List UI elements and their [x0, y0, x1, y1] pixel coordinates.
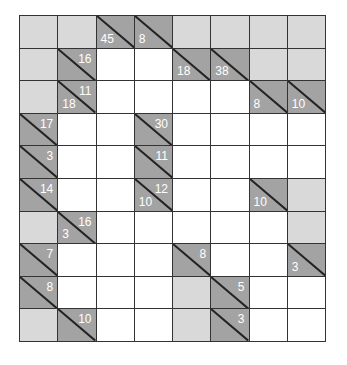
down-clue: 38 — [215, 65, 228, 77]
entry-cell[interactable] — [211, 114, 248, 146]
clue-cell: 11 — [135, 146, 172, 178]
entry-cell[interactable] — [135, 212, 172, 244]
entry-cell[interactable] — [97, 114, 134, 146]
across-clue: 3 — [238, 313, 245, 325]
blocked-cell — [288, 49, 325, 81]
entry-cell[interactable] — [211, 146, 248, 178]
clue-cell: 8 — [20, 277, 57, 309]
across-clue: 12 — [155, 183, 168, 195]
entry-cell[interactable] — [250, 212, 287, 244]
entry-cell[interactable] — [135, 244, 172, 276]
entry-cell[interactable] — [135, 49, 172, 81]
down-clue: 45 — [101, 33, 114, 45]
blocked-cell — [250, 49, 287, 81]
blocked-cell — [173, 16, 210, 48]
blocked-cell — [173, 277, 210, 309]
entry-cell[interactable] — [97, 146, 134, 178]
across-clue: 17 — [40, 118, 53, 130]
across-clue: 16 — [78, 216, 91, 228]
across-clue: 14 — [40, 183, 53, 195]
entry-cell[interactable] — [97, 179, 134, 211]
entry-cell[interactable] — [211, 179, 248, 211]
across-clue: 8 — [47, 281, 54, 293]
blocked-cell — [288, 179, 325, 211]
entry-cell[interactable] — [250, 277, 287, 309]
clue-cell: 3 — [211, 309, 248, 341]
entry-cell[interactable] — [58, 244, 95, 276]
entry-cell[interactable] — [97, 277, 134, 309]
entry-cell[interactable] — [173, 146, 210, 178]
entry-cell[interactable] — [97, 81, 134, 113]
clue-cell: 30 — [135, 114, 172, 146]
blocked-cell — [211, 16, 248, 48]
clue-cell: 17 — [20, 114, 57, 146]
across-clue: 16 — [78, 53, 91, 65]
across-clue: 5 — [238, 281, 245, 293]
entry-cell[interactable] — [250, 244, 287, 276]
blocked-cell — [20, 81, 57, 113]
clue-cell: 10 — [288, 81, 325, 113]
entry-cell[interactable] — [97, 49, 134, 81]
down-clue: 18 — [177, 65, 190, 77]
entry-cell[interactable] — [58, 277, 95, 309]
entry-cell[interactable] — [58, 146, 95, 178]
entry-cell[interactable] — [173, 212, 210, 244]
clue-cell: 8 — [135, 16, 172, 48]
blocked-cell — [250, 16, 287, 48]
entry-cell[interactable] — [173, 114, 210, 146]
entry-cell[interactable] — [97, 244, 134, 276]
blocked-cell — [20, 16, 57, 48]
clue-cell: 3 — [288, 244, 325, 276]
clue-cell: 10 — [58, 309, 95, 341]
across-clue: 10 — [78, 313, 91, 325]
clue-cell: 1118 — [58, 81, 95, 113]
entry-cell[interactable] — [135, 277, 172, 309]
down-clue: 3 — [292, 261, 299, 273]
blocked-cell — [20, 49, 57, 81]
clue-cell: 163 — [58, 212, 95, 244]
clue-cell: 8 — [173, 244, 210, 276]
entry-cell[interactable] — [173, 81, 210, 113]
entry-cell[interactable] — [97, 212, 134, 244]
across-clue: 7 — [47, 248, 54, 260]
entry-cell[interactable] — [58, 179, 95, 211]
kakuro-grid: 4581618381118810173031114121010163783851… — [19, 15, 326, 342]
blocked-cell — [20, 212, 57, 244]
entry-cell[interactable] — [211, 212, 248, 244]
across-clue: 30 — [155, 118, 168, 130]
entry-cell[interactable] — [97, 309, 134, 341]
clue-cell: 8 — [250, 81, 287, 113]
clue-cell: 16 — [58, 49, 95, 81]
entry-cell[interactable] — [288, 309, 325, 341]
down-clue: 18 — [62, 98, 75, 110]
blocked-cell — [173, 309, 210, 341]
entry-cell[interactable] — [288, 277, 325, 309]
entry-cell[interactable] — [288, 114, 325, 146]
clue-cell: 18 — [173, 49, 210, 81]
entry-cell[interactable] — [250, 114, 287, 146]
across-clue: 11 — [156, 150, 168, 162]
blocked-cell — [288, 212, 325, 244]
entry-cell[interactable] — [250, 146, 287, 178]
entry-cell[interactable] — [288, 146, 325, 178]
down-clue: 3 — [62, 228, 69, 240]
clue-cell: 45 — [97, 16, 134, 48]
entry-cell[interactable] — [211, 81, 248, 113]
clue-cell: 5 — [211, 277, 248, 309]
entry-cell[interactable] — [173, 179, 210, 211]
blocked-cell — [288, 16, 325, 48]
clue-cell: 38 — [211, 49, 248, 81]
across-clue: 3 — [47, 150, 54, 162]
blocked-cell — [58, 16, 95, 48]
entry-cell[interactable] — [211, 244, 248, 276]
clue-cell: 7 — [20, 244, 57, 276]
entry-cell[interactable] — [250, 309, 287, 341]
entry-cell[interactable] — [135, 309, 172, 341]
down-clue: 10 — [292, 98, 305, 110]
down-clue: 10 — [254, 196, 267, 208]
entry-cell[interactable] — [135, 81, 172, 113]
clue-cell: 3 — [20, 146, 57, 178]
blocked-cell — [20, 309, 57, 341]
entry-cell[interactable] — [58, 114, 95, 146]
down-clue: 8 — [139, 33, 146, 45]
